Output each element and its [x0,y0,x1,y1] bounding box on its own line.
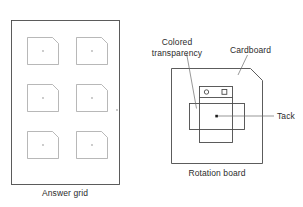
cardboard-piece[interactable] [200,87,233,143]
cell-center-dot [91,144,93,146]
table-row [28,132,108,159]
figure-root: Answer grid Colored [0,0,303,207]
leader-line-cardboard [238,55,248,75]
cell-center-dot [42,50,44,52]
tack-label: Tack [277,111,296,121]
stray-speck [116,109,118,111]
cell-center-dot [91,50,93,52]
colored-transparency-label-line2: transparency [152,48,203,58]
table-row [28,85,108,112]
answer-grid-panel: Answer grid [12,21,120,199]
cell-center-dot [42,97,44,99]
diagram-canvas: Answer grid Colored [0,0,303,207]
table-row [28,38,108,65]
cardboard-label: Cardboard [230,45,271,55]
tack-dot [215,115,218,118]
leader-line-colored-transparency [187,53,197,109]
cell-center-dot [91,97,93,99]
rotation-board-caption: Rotation board [188,168,245,178]
square-marker-icon [222,90,227,95]
cell-center-dot [42,144,44,146]
answer-grid-caption: Answer grid [42,188,88,198]
rotation-board-panel: Colored transparency Cardboard Tack Rota… [152,37,296,178]
colored-transparency-label-line1: Colored [162,37,193,47]
circle-marker-icon [204,90,208,94]
